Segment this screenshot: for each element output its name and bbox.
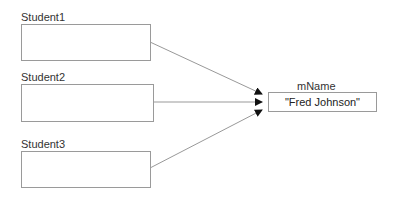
mname-label: mName bbox=[297, 80, 336, 92]
arrow-student1 bbox=[150, 42, 262, 94]
student2-label: Student2 bbox=[21, 71, 65, 83]
student1-box bbox=[21, 24, 151, 61]
arrow-student3 bbox=[150, 110, 262, 168]
mname-value: "Fred Johnson" bbox=[269, 96, 376, 108]
student3-box bbox=[21, 151, 151, 188]
student2-box bbox=[21, 84, 154, 122]
mname-box: "Fred Johnson" bbox=[268, 92, 377, 112]
student1-label: Student1 bbox=[21, 11, 65, 23]
student3-label: Student3 bbox=[21, 138, 65, 150]
